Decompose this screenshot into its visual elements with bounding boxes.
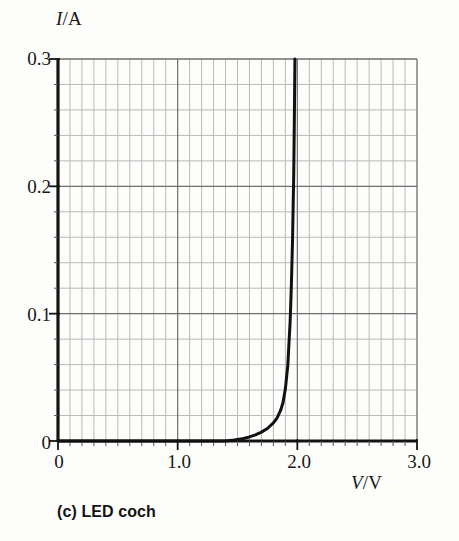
axis-ticks: [49, 59, 417, 450]
plot-area: [0, 0, 459, 541]
grid-minor: [58, 59, 417, 441]
figure-container: I/A V/V 0.3 0.2 0.1 0 0 1.0 2.0 3.0 (c) …: [0, 0, 459, 541]
